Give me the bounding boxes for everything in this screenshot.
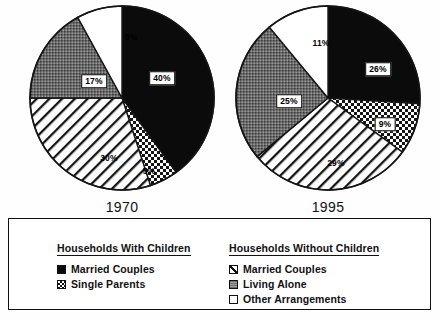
pie-slice-percent-label: 17%: [81, 74, 107, 88]
legend-swatch-solid-black-icon: [57, 265, 66, 274]
pie-slice-percent-label: 30%: [98, 153, 120, 164]
legend-swatch-gray-stipple-icon: [229, 280, 238, 289]
legend-item-label: Living Alone: [243, 278, 307, 290]
legend-swatch-diagonal-hatch-icon: [229, 265, 238, 274]
legend-item: Other Arrangements: [229, 292, 379, 306]
legend-item-label: Married Couples: [71, 263, 155, 275]
pie-slice-percent-label: 25%: [276, 94, 302, 108]
pie-chart-1995: 26%9%29%25%11% 1995: [228, 4, 428, 216]
pie-year-label-1970: 1970: [22, 199, 222, 215]
pie-slice-percent-label: 11%: [310, 38, 331, 49]
legend-swatch-checker-dots-icon: [57, 280, 66, 289]
legend-columns: Households With Children Married Couples…: [9, 219, 430, 309]
legend-box: Households With Children Married Couples…: [8, 218, 431, 310]
legend-group-with-children: Households With Children Married Couples…: [57, 238, 191, 292]
pie-slice-percent-label: 5%: [141, 166, 158, 177]
pie-slice-percent-label: 29%: [325, 158, 347, 169]
pie-charts-row: 40%5%30%17%8% 1970: [0, 0, 441, 216]
pie-chart-figure: 40%5%30%17%8% 1970: [0, 0, 441, 319]
pie-slice-percent-label: 40%: [149, 71, 175, 85]
pie-year-label-1995: 1995: [228, 199, 428, 215]
pie-slice-percent-label: 26%: [365, 62, 391, 76]
pie-chart-1970: 40%5%30%17%8% 1970: [22, 4, 222, 216]
legend-item-label: Other Arrangements: [243, 293, 347, 305]
legend-item-label: Single Parents: [71, 278, 145, 290]
legend-item: Single Parents: [57, 277, 191, 291]
pie-slice-percent-label: 9%: [375, 117, 396, 131]
legend-item: Married Couples: [57, 262, 191, 276]
pie-slice: [328, 6, 420, 104]
legend-item: Living Alone: [229, 277, 379, 291]
legend-group-title: Households Without Children: [229, 242, 379, 256]
legend-group-without-children: Households Without Children Married Coup…: [229, 238, 379, 307]
legend-item: Married Couples: [229, 262, 379, 276]
legend-swatch-white-icon: [229, 295, 238, 304]
legend-group-title: Households With Children: [57, 242, 191, 256]
pie-slice-percent-label: 8%: [123, 32, 140, 43]
legend-item-label: Married Couples: [243, 263, 327, 275]
